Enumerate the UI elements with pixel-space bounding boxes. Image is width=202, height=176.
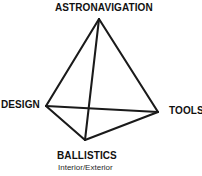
- vertex-label-tools: TOOLS: [169, 105, 202, 116]
- edge-right-to-bottom: [85, 112, 158, 140]
- vertex-label-design: DESIGN: [1, 99, 40, 110]
- edge-left-to-right: [46, 106, 158, 112]
- vertex-label-astronavigation: ASTRONAVIGATION: [55, 2, 153, 13]
- edge-apex-to-right: [99, 19, 158, 112]
- vertex-label-ballistics: BALLISTICS: [57, 150, 117, 161]
- edge-left-to-bottom: [46, 106, 85, 140]
- vertex-sublabel-ballistics: Interior/Exterior: [58, 163, 113, 172]
- tetrahedron-diagram: ASTRONAVIGATION DESIGN TOOLS BALLISTICS …: [0, 0, 202, 176]
